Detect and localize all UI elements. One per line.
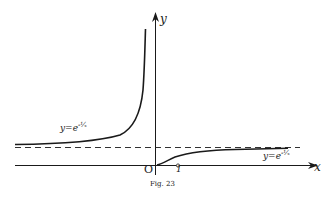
right-curve-label: y=e-¹⁄ₓ <box>263 149 290 161</box>
left-curve-label-exp: -¹⁄ₓ <box>78 121 87 129</box>
y-axis-label: y <box>160 12 167 26</box>
left-curve-label: y=e-¹⁄ₓ <box>60 121 87 133</box>
x-axis-label: x <box>314 160 321 174</box>
figure-caption: Fig. 23 <box>150 180 175 188</box>
tick-label-1: 1 <box>176 164 182 174</box>
right-curve-label-exp: -¹⁄ₓ <box>281 149 290 157</box>
left-curve-label-base: y=e <box>60 123 78 133</box>
figure-canvas <box>0 0 334 202</box>
right-curve-label-base: y=e <box>263 151 281 161</box>
origin-label: O <box>144 163 153 176</box>
